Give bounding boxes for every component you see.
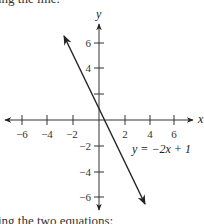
bottom-text-fragment: ing the two equations: [0,213,113,224]
x-tick-label: −6 [16,128,28,140]
x-tick-label: 2 [122,128,128,140]
x-tick-label: 4 [147,128,153,140]
x-tick-label: 6 [171,128,177,140]
y-tick-label: −6 [79,191,91,203]
equation-label: y = −2x + 1 [131,142,191,156]
y-tick-label: 4 [86,62,92,74]
x-axis-label: x [197,112,204,126]
y-axis-label: y [95,7,102,21]
x-tick-label: −2 [66,128,78,140]
x-tick-label: −4 [41,128,53,140]
y-tick-label: −4 [79,166,91,178]
y-tick-label: −2 [79,140,91,152]
coordinate-plane: −6 −4 −2 2 4 6 6 4 −2 −4 −6 x y y = −2x … [0,0,204,224]
y-tick-label: 6 [86,37,92,49]
